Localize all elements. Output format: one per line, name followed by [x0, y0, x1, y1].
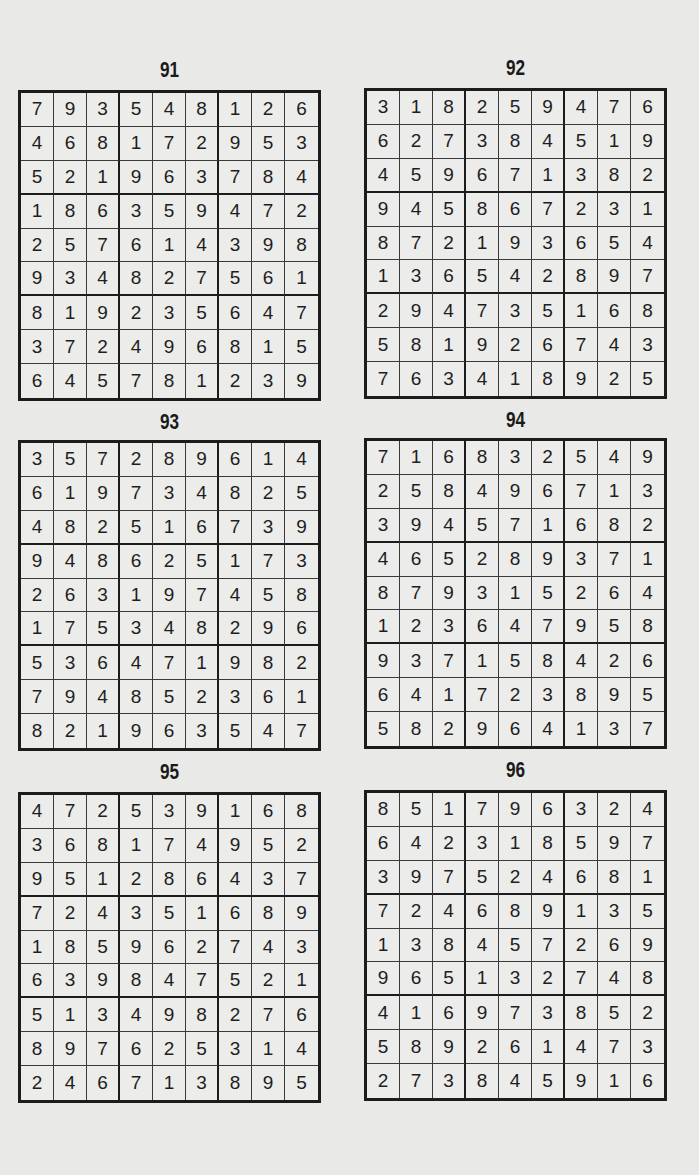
grid-cell: 6 [87, 1066, 120, 1100]
grid-cell: 9 [598, 827, 631, 861]
grid-cell: 4 [598, 441, 631, 475]
grid-cell: 5 [285, 330, 318, 364]
grid-cell: 7 [466, 294, 499, 328]
grid-cell: 5 [466, 861, 499, 895]
grid-cell: 9 [631, 125, 664, 159]
grid-cell: 5 [466, 260, 499, 294]
grid-cell: 8 [252, 646, 285, 680]
grid-cell: 8 [565, 996, 598, 1030]
grid-cell: 6 [252, 262, 285, 296]
grid-cell: 8 [400, 712, 433, 746]
grid-cell: 3 [219, 1032, 252, 1066]
grid-cell: 2 [367, 475, 400, 509]
grid-cell: 5 [21, 646, 54, 680]
grid-cell: 3 [433, 610, 466, 644]
grid-cell: 8 [565, 678, 598, 712]
grid-cell: 1 [367, 929, 400, 963]
grid-cell: 4 [21, 127, 54, 161]
grid-cell: 5 [499, 929, 532, 963]
grid-cell: 5 [400, 475, 433, 509]
grid-cell: 4 [87, 680, 120, 714]
grid-cell: 4 [499, 610, 532, 644]
grid-cell: 1 [631, 861, 664, 895]
grid-cell: 2 [120, 863, 153, 897]
grid-cell: 1 [252, 330, 285, 364]
grid-cell: 6 [565, 509, 598, 543]
grid-cell: 4 [631, 793, 664, 827]
grid-cell: 9 [186, 443, 219, 477]
grid-cell: 3 [120, 897, 153, 931]
puzzle-title: 93 [51, 410, 287, 434]
grid-cell: 7 [466, 793, 499, 827]
grid-cell: 9 [285, 364, 318, 398]
grid-cell: 2 [466, 543, 499, 577]
grid-cell: 7 [433, 125, 466, 159]
grid-cell: 3 [153, 296, 186, 330]
grid-cell: 2 [400, 895, 433, 929]
grid-cell: 2 [21, 1066, 54, 1100]
sudoku-grid: 7168325492584967133945716824652893718793… [364, 438, 667, 749]
grid-cell: 8 [87, 127, 120, 161]
puzzle-title: 92 [397, 56, 633, 80]
grid-cell: 2 [219, 612, 252, 646]
grid-cell: 5 [631, 895, 664, 929]
grid-cell: 5 [367, 328, 400, 362]
grid-cell: 8 [285, 229, 318, 263]
grid-cell: 9 [285, 897, 318, 931]
sudoku-grid: 3182594766273845194596713829458672318721… [364, 88, 667, 399]
grid-cell: 8 [120, 680, 153, 714]
grid-cell: 9 [433, 159, 466, 193]
grid-cell: 6 [367, 678, 400, 712]
grid-cell: 6 [433, 996, 466, 1030]
grid-cell: 1 [433, 678, 466, 712]
grid-cell: 4 [54, 364, 87, 398]
grid-cell: 9 [400, 294, 433, 328]
grid-cell: 7 [565, 475, 598, 509]
grid-cell: 3 [400, 644, 433, 678]
grid-cell: 9 [565, 610, 598, 644]
grid-cell: 2 [532, 962, 565, 996]
grid-cell: 7 [252, 545, 285, 579]
grid-cell: 7 [598, 91, 631, 125]
grid-cell: 5 [54, 863, 87, 897]
grid-cell: 9 [153, 998, 186, 1032]
grid-cell: 3 [186, 161, 219, 195]
grid-cell: 6 [219, 897, 252, 931]
grid-cell: 7 [54, 330, 87, 364]
grid-cell: 2 [499, 678, 532, 712]
grid-cell: 4 [499, 1064, 532, 1098]
grid-cell: 5 [367, 1030, 400, 1064]
grid-cell: 1 [153, 229, 186, 263]
grid-cell: 6 [54, 579, 87, 613]
grid-cell: 2 [153, 262, 186, 296]
grid-cell: 6 [565, 227, 598, 261]
grid-cell: 9 [466, 712, 499, 746]
grid-cell: 3 [466, 125, 499, 159]
sudoku-grid: 8517963246423185973975246817246891351384… [364, 790, 667, 1101]
grid-cell: 4 [466, 362, 499, 396]
grid-cell: 4 [400, 193, 433, 227]
grid-cell: 5 [598, 996, 631, 1030]
grid-cell: 3 [186, 714, 219, 748]
grid-cell: 3 [252, 364, 285, 398]
grid-cell: 6 [367, 827, 400, 861]
grid-cell: 5 [219, 964, 252, 998]
grid-cell: 9 [565, 362, 598, 396]
grid-cell: 6 [631, 1064, 664, 1098]
grid-cell: 5 [87, 364, 120, 398]
grid-cell: 9 [252, 229, 285, 263]
grid-cell: 2 [565, 193, 598, 227]
grid-cell: 7 [400, 577, 433, 611]
grid-cell: 8 [433, 929, 466, 963]
grid-cell: 7 [87, 1032, 120, 1066]
puzzle-title: 94 [397, 408, 633, 432]
grid-cell: 5 [21, 161, 54, 195]
grid-cell: 5 [120, 795, 153, 829]
grid-cell: 3 [367, 861, 400, 895]
grid-cell: 2 [598, 644, 631, 678]
grid-cell: 7 [186, 262, 219, 296]
grid-cell: 6 [598, 294, 631, 328]
grid-cell: 8 [21, 296, 54, 330]
grid-cell: 9 [598, 678, 631, 712]
grid-cell: 3 [153, 795, 186, 829]
